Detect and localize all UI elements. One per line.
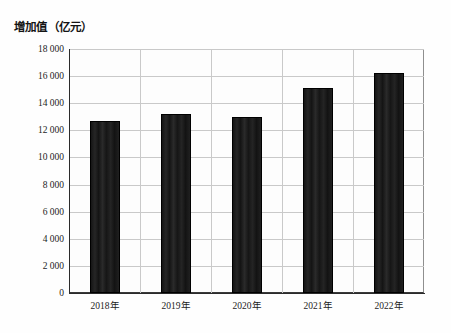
- gridline-horizontal: [70, 76, 424, 77]
- y-axis-tick-label: 4 000: [10, 234, 64, 244]
- y-axis-tick-label: 6 000: [10, 207, 64, 217]
- y-axis-tick-label: 14 000: [10, 98, 64, 108]
- x-axis-tick-label: 2018年: [70, 300, 140, 312]
- x-axis-line: [69, 293, 425, 294]
- y-axis-tick-label: 12 000: [10, 125, 64, 135]
- y-axis-tick-label: 10 000: [10, 152, 64, 162]
- y-axis-tick-labels: 02 0004 0006 0008 00010 00012 00014 0001…: [8, 0, 64, 333]
- gridline-vertical: [140, 50, 141, 293]
- bar-2018年: [90, 121, 120, 293]
- bar-2020年: [232, 117, 262, 293]
- bar-chart-figure: 增加值（亿元） 02 0004 0006 0008 00010 00012 00…: [0, 0, 451, 333]
- y-axis-tick-label: 0: [10, 288, 64, 298]
- y-axis-tick-label: 16 000: [10, 71, 64, 81]
- x-axis-tick-label: 2020年: [212, 300, 282, 312]
- y-axis-tick-label: 8 000: [10, 180, 64, 190]
- x-axis-tick-label: 2021年: [283, 300, 353, 312]
- gridline-vertical: [211, 50, 212, 293]
- bar-2022年: [374, 73, 404, 293]
- x-axis-tick-label: 2019年: [141, 300, 211, 312]
- gridline-vertical: [353, 50, 354, 293]
- gridline-vertical: [282, 50, 283, 293]
- gridline-horizontal: [70, 103, 424, 104]
- y-axis-tick-label: 2 000: [10, 261, 64, 271]
- y-axis-tick-label: 18 000: [10, 44, 64, 54]
- bar-2019年: [161, 114, 191, 293]
- bar-2021年: [303, 88, 333, 293]
- y-axis-line: [69, 49, 70, 294]
- gridline-horizontal: [70, 49, 424, 50]
- x-axis-tick-label: 2022年: [354, 300, 424, 312]
